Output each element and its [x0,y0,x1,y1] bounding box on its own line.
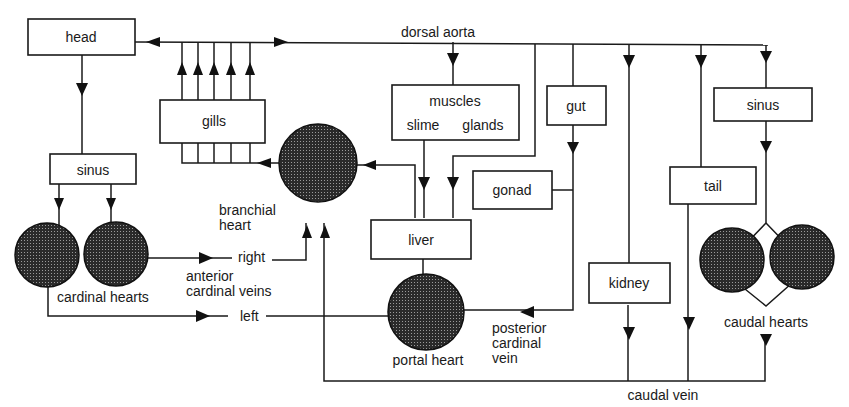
glands-label: glands [462,117,503,133]
branchial-heart-label-1: branchial [219,202,276,218]
left-label: left [240,308,259,324]
organ-liver: liver [371,220,471,259]
cardinal-heart-left [15,223,79,287]
muscles-label: muscles [429,93,480,109]
organ-head: head [28,19,135,55]
organ-sinus-left: sinus [50,154,136,184]
hagfish-circulation-diagram: head sinus gills muscles slime glands gu… [0,0,849,407]
sinus-left-label: sinus [77,162,110,178]
organ-tail: tail [670,167,756,204]
slime-label: slime [407,117,440,133]
caudal-heart-right [770,225,834,289]
gills-label: gills [202,113,226,129]
organ-gonad: gonad [473,171,552,209]
anterior-cardinal-veins-label-2: cardinal veins [186,283,272,299]
gut-label: gut [566,98,586,114]
sinus-right-label: sinus [747,97,780,113]
right-label: right [238,249,265,265]
kidney-label: kidney [609,275,649,291]
liver-to-branchial-heart-line [357,165,415,218]
gut-to-portal-line [463,125,573,310]
organ-sinus-right: sinus [714,88,812,121]
caudal-vein-label: caudal vein [628,387,699,403]
caudal-hearts-label: caudal hearts [724,314,808,330]
cardinal-hearts-label: cardinal hearts [57,289,149,305]
dorsal-aorta-line [135,42,768,45]
posterior-cardinal-vein-label-3: vein [492,350,518,366]
portal-heart [388,274,464,350]
posterior-cardinal-vein-label-1: posterior [492,320,547,336]
organ-gills: gills [160,100,265,143]
branchial-heart [279,124,357,202]
anterior-cardinal-veins-label-1: anterior [186,268,234,284]
organ-kidney: kidney [589,263,670,303]
liver-label: liver [408,232,434,248]
organ-muscles-slime-glands: muscles slime glands [392,85,519,140]
tail-label: tail [704,178,722,194]
portal-heart-label: portal heart [393,352,464,368]
gill-afferent-vessels [182,143,280,163]
gonad-label: gonad [493,182,532,198]
branchial-heart-label-2: heart [219,217,251,233]
caudal-heart-left [700,228,764,292]
dorsal-aorta-label: dorsal aorta [401,24,475,40]
cardinal-heart-right [84,222,148,286]
head-label: head [65,29,96,45]
posterior-cardinal-vein-label-2: cardinal [492,335,541,351]
organ-gut: gut [547,86,606,125]
